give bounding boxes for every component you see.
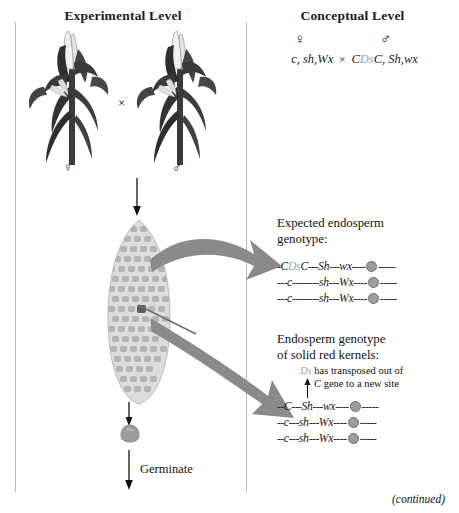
gene-allele-label: Wx xyxy=(339,292,353,305)
germinate-label: Germinate xyxy=(140,462,193,477)
solid-title-line1: Endosperm genotype xyxy=(277,332,385,346)
gene-allele-label: Sh xyxy=(301,400,312,413)
cross-times-symbol: × xyxy=(333,53,351,65)
female-symbol-plant: ♀ xyxy=(63,160,73,176)
experimental-level-heading: Experimental Level xyxy=(0,8,246,24)
chromosome-segment: -- xyxy=(277,400,284,413)
chromosome-row: ---c--------sh---Wx--------- xyxy=(277,274,397,290)
ds-element-male: Ds xyxy=(360,52,374,66)
female-symbol-conceptual: ♀ xyxy=(294,30,305,48)
chromosome-segment: ---- xyxy=(353,276,366,289)
arrow-ear-to-seed xyxy=(124,402,134,426)
gene-allele-label: C xyxy=(284,400,292,413)
conceptual-cross-genotypes: c, sh,Wx×CDsC, Sh,wx xyxy=(252,52,457,67)
gene-allele-label: sh xyxy=(299,432,309,445)
chromosome-segment: ---- xyxy=(335,400,348,413)
gene-allele-label: Sh xyxy=(318,260,329,273)
chromosome-segment: ----- xyxy=(380,292,397,305)
chromosome-row: --c---sh---Wx--------- xyxy=(277,414,378,430)
transposition-up-arrow xyxy=(303,378,312,398)
arrow-cross-to-ear xyxy=(132,178,142,216)
transposition-note: Ds has transposed out of C gene to a new… xyxy=(300,364,450,390)
chromosome-segment: --- xyxy=(277,292,287,305)
chromosome-segment: ----- xyxy=(360,416,377,429)
gene-allele-label: Wx xyxy=(319,432,333,445)
female-genotype: c, sh,Wx xyxy=(291,52,333,66)
continued-label: (continued) xyxy=(392,493,445,505)
plant-cross-symbol: × xyxy=(118,95,125,111)
gene-allele-label: Wx xyxy=(339,276,353,289)
arrow-germinate xyxy=(124,450,134,490)
left-border-rule xyxy=(15,22,16,492)
ds-element: Ds xyxy=(288,260,301,273)
expected-genotype-title: Expected endosperm genotype: xyxy=(277,216,457,247)
conceptual-level-heading: Conceptual Level xyxy=(246,8,459,24)
chromosome-segment: --- xyxy=(289,416,299,429)
chromosome-segment: ---- xyxy=(353,292,366,305)
chromosome-segment: --- xyxy=(329,260,339,273)
centromere-marker xyxy=(366,261,377,272)
c-gene-label: C xyxy=(314,378,321,389)
gene-allele-label: sh xyxy=(319,276,329,289)
chromosome-segment: ----- xyxy=(362,400,379,413)
centromere-marker xyxy=(368,293,379,304)
chromosome-row: --C---Sh---wx--------- xyxy=(277,398,378,414)
chromosome-segment: --- xyxy=(309,432,319,445)
centromere-marker xyxy=(348,433,359,444)
single-kernel-seed xyxy=(120,424,140,443)
solid-red-genotype-title: Endosperm genotype of solid red kernels: xyxy=(277,332,457,363)
note-text-line2: gene to a new site xyxy=(321,378,399,389)
solid-title-line2: of solid red kernels: xyxy=(277,348,379,362)
chromosome-segment: --- xyxy=(308,260,318,273)
gene-allele-label: Wx xyxy=(319,416,333,429)
chromosome-segment: -------- xyxy=(292,276,319,289)
note-text-line1: has transposed out of xyxy=(312,365,404,376)
ds-element-note: Ds xyxy=(300,365,312,376)
chromosome-segment: ---- xyxy=(352,260,365,273)
expected-title-line1: Expected endosperm xyxy=(277,216,384,230)
corn-plant-female xyxy=(22,25,118,170)
male-symbol-plant: ♂ xyxy=(172,160,182,176)
gene-allele-label: wx xyxy=(323,400,335,413)
expected-chromosome-set: -CDsC---Sh---wx------------c--------sh--… xyxy=(277,258,397,306)
chromosome-row: ---c--------sh---Wx--------- xyxy=(277,290,397,306)
chromosome-segment: ----- xyxy=(360,432,377,445)
corn-plant-male xyxy=(130,25,226,170)
gene-allele-label: sh xyxy=(319,292,329,305)
gene-allele-label: C xyxy=(300,260,308,273)
centromere-marker xyxy=(348,417,359,428)
chromosome-segment: --- xyxy=(309,416,319,429)
chromosome-segment: --- xyxy=(291,400,301,413)
arrow-to-solid-red-genotype xyxy=(150,318,296,428)
centromere-marker xyxy=(368,277,379,288)
centromere-marker xyxy=(350,401,361,412)
solid-chromosome-set: --C---Sh---wx-----------c---sh---Wx-----… xyxy=(277,398,378,446)
gene-allele-label: sh xyxy=(299,416,309,429)
gene-allele-label: C xyxy=(280,260,288,273)
note-line2: C gene to a new site xyxy=(300,377,450,390)
chromosome-segment: ---- xyxy=(333,416,346,429)
genetics-figure: Experimental Level Conceptual Level ♀ ♂ … xyxy=(0,0,459,513)
male-symbol-conceptual: ♂ xyxy=(380,30,391,48)
chromosome-segment: --- xyxy=(329,292,339,305)
conceptual-gender-symbols: ♀ ♂ xyxy=(252,30,452,50)
chromosome-row: --c---sh---Wx--------- xyxy=(277,430,378,446)
expected-title-line2: genotype: xyxy=(277,232,327,246)
chromosome-row: -CDsC---Sh---wx--------- xyxy=(277,258,397,274)
gene-allele-label: wx xyxy=(339,260,351,273)
chromosome-segment: -------- xyxy=(292,292,319,305)
chromosome-segment: ----- xyxy=(378,260,395,273)
male-genotype: CDsC, Sh,wx xyxy=(351,52,417,66)
chromosome-segment: --- xyxy=(277,276,287,289)
chromosome-segment: --- xyxy=(313,400,323,413)
chromosome-segment: -- xyxy=(277,416,284,429)
chromosome-segment: -- xyxy=(277,432,284,445)
chromosome-segment: --- xyxy=(289,432,299,445)
chromosome-segment: ----- xyxy=(380,276,397,289)
arrow-to-expected-genotype xyxy=(150,228,286,298)
chromosome-segment: --- xyxy=(329,276,339,289)
chromosome-segment: ---- xyxy=(333,432,346,445)
